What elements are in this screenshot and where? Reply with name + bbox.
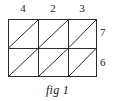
cell-diagonal-r0c2 bbox=[69, 20, 96, 48]
cell-diagonal-r1c1 bbox=[39, 49, 68, 77]
top-label-column-2: 2 bbox=[45, 3, 61, 14]
top-label-column-3: 3 bbox=[74, 3, 90, 14]
top-label-column-1: 4 bbox=[15, 3, 31, 14]
cell-diagonal-r1c2 bbox=[69, 49, 96, 77]
cell-diagonal-r1c0 bbox=[9, 49, 38, 77]
cell-diagonal-r0c1 bbox=[39, 20, 68, 48]
cell-diagonal-r0c0 bbox=[9, 20, 38, 48]
right-label-row-2: 6 bbox=[100, 57, 112, 68]
figure-caption: fig 1 bbox=[0, 83, 115, 97]
figure-container: 4 2 3 7 6 fig 1 bbox=[0, 0, 115, 101]
right-label-row-1: 7 bbox=[100, 27, 112, 38]
